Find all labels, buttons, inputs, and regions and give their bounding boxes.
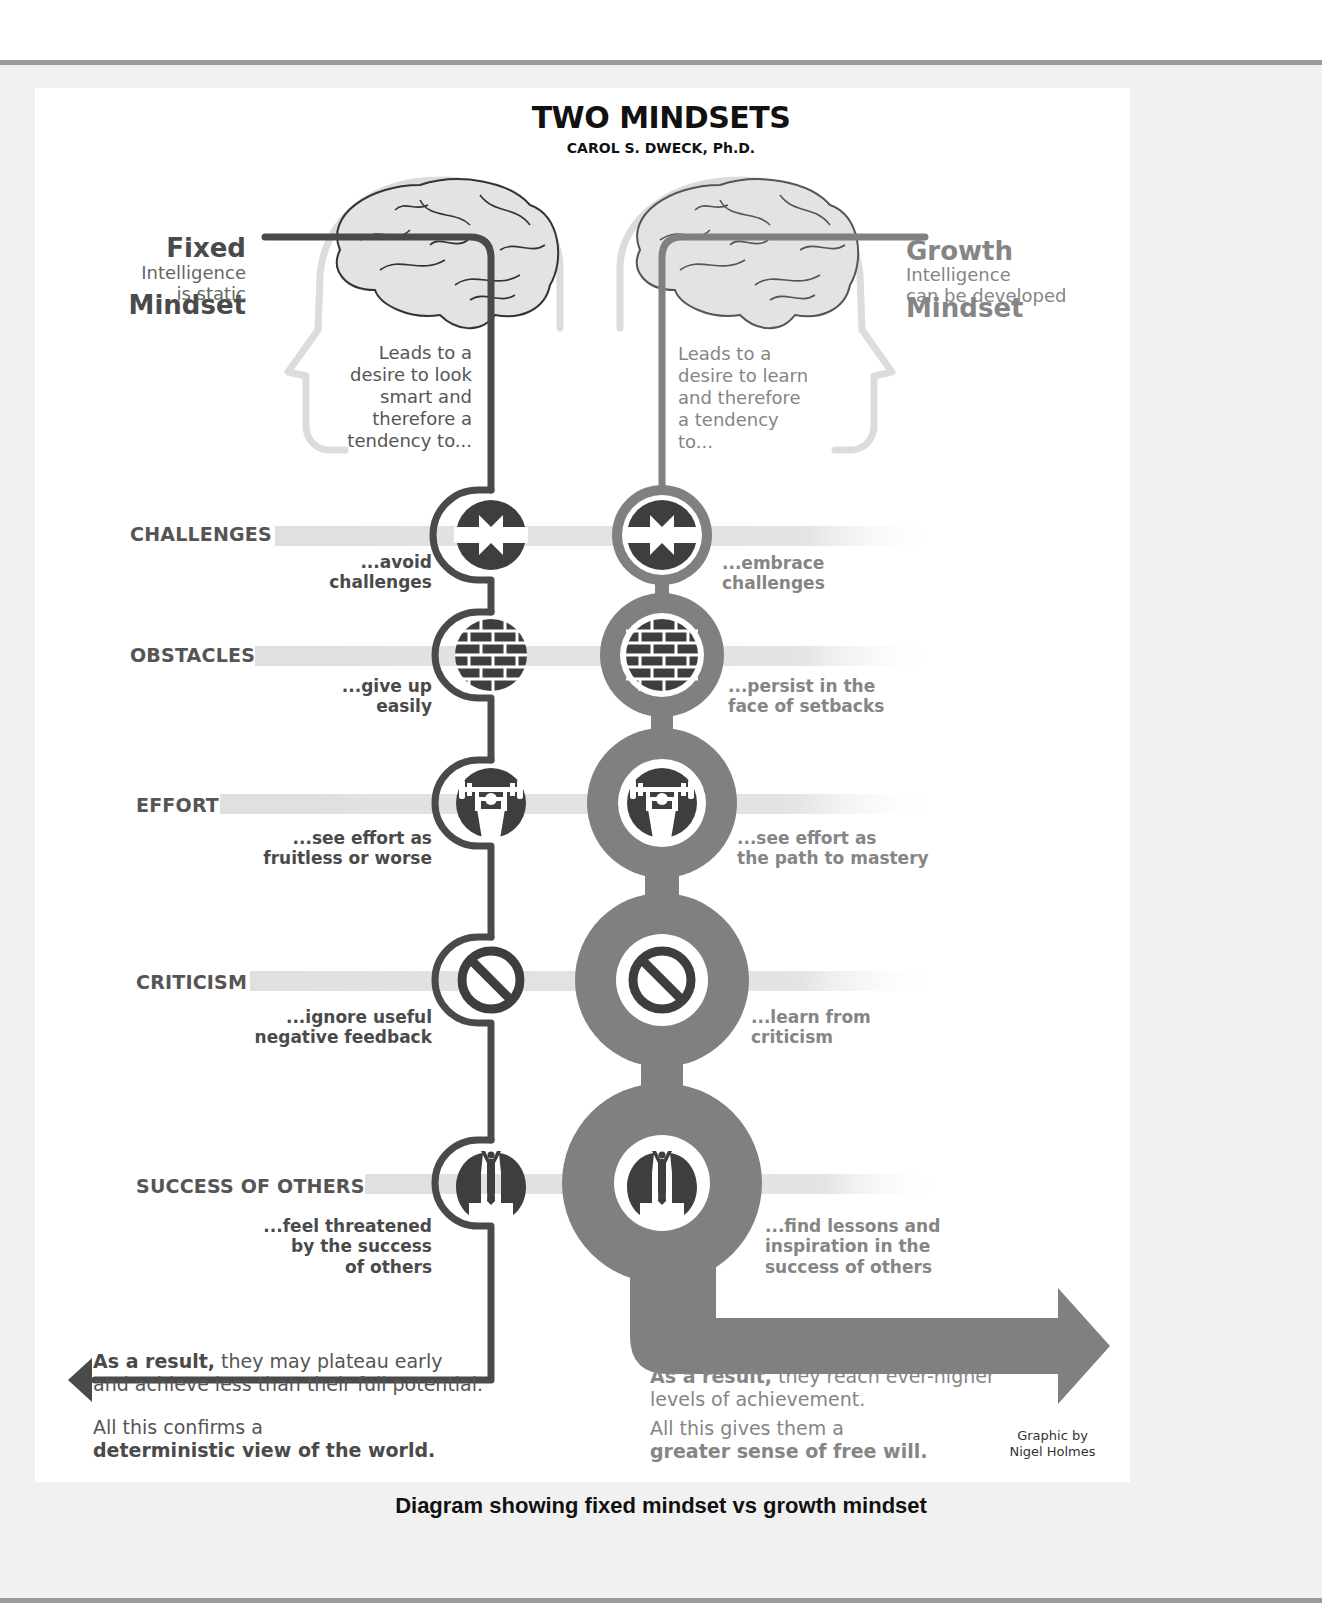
growth-response-effort: ...see effort as the path to mastery (737, 828, 957, 869)
growth-name-line1: Growth (906, 236, 1013, 266)
diagram-title: TWO MINDSETS (0, 101, 1322, 135)
fixed-mindset-description: Intelligence is static (100, 263, 246, 304)
category-label-challenges: CHALLENGES (130, 524, 272, 545)
fixed-response-criticism: ...ignore useful negative feedback (232, 1007, 432, 1048)
growth-leads-to: Leads to a desire to learn and therefore… (678, 343, 838, 453)
category-label-effort: EFFORT (136, 795, 219, 816)
category-label-success-of-others: SUCCESS OF OTHERS (136, 1176, 365, 1197)
fixed-arrowhead-left (68, 1358, 92, 1402)
fixed-response-success-of-others: ...feel threatened by the success of oth… (232, 1216, 432, 1277)
fixed-result: As a result, they may plateau early and … (93, 1350, 513, 1396)
diagram-author: CAROL S. DWECK, Ph.D. (0, 141, 1322, 157)
growth-conclusion-plain: All this gives them a (650, 1417, 844, 1439)
fixed-conclusion-bold: deterministic view of the world. (93, 1439, 435, 1461)
growth-conclusion: All this gives them agreater sense of fr… (650, 1417, 1010, 1463)
graphic-credit: Graphic by Nigel Holmes (1000, 1428, 1105, 1459)
category-label-obstacles: OBSTACLES (130, 645, 255, 666)
growth-result: As a result, they reach ever-higher leve… (650, 1365, 1010, 1411)
growth-response-challenges: ...embrace challenges (722, 553, 942, 594)
fixed-response-effort: ...see effort as fruitless or worse (232, 828, 432, 869)
fixed-brain-icon (337, 179, 558, 328)
fixed-name-line1: Fixed (166, 233, 246, 263)
fixed-result-lead: As a result, (93, 1350, 215, 1372)
fixed-leads-to: Leads to a desire to look smart and ther… (320, 342, 472, 452)
growth-response-success-of-others: ...find lessons and inspiration in the s… (765, 1216, 985, 1277)
growth-brain-icon (637, 179, 858, 328)
growth-result-lead: As a result, (650, 1365, 772, 1387)
fixed-response-challenges: ...avoid challenges (232, 552, 432, 593)
growth-response-criticism: ...learn from criticism (751, 1007, 971, 1048)
growth-response-obstacles: ...persist in the face of setbacks (728, 676, 948, 717)
figure-caption: Diagram showing fixed mindset vs growth … (0, 1494, 1322, 1519)
fixed-response-obstacles: ...give up easily (232, 676, 432, 717)
fixed-conclusion-plain: All this confirms a (93, 1416, 263, 1438)
growth-conclusion-bold: greater sense of free will. (650, 1440, 927, 1462)
growth-mindset-description: Intelligence can be developed (906, 265, 1106, 306)
category-label-criticism: CRITICISM (136, 972, 247, 993)
fixed-conclusion: All this confirms adeterministic view of… (93, 1416, 513, 1462)
